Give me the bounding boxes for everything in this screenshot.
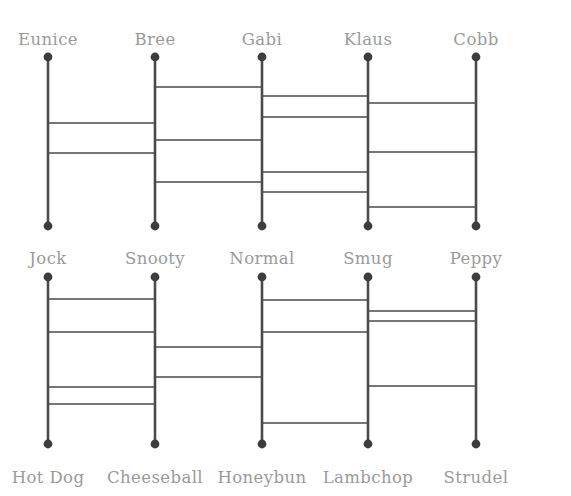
ladder-node-bottom — [472, 222, 481, 231]
upper-top-label-3: Klaus — [344, 32, 393, 49]
ladder-node-top — [258, 53, 267, 62]
ladder-canvas — [0, 0, 571, 496]
lower-ladder — [44, 273, 481, 449]
lower-bottom-label-2: Honeybun — [217, 470, 306, 487]
ladder-node-bottom — [151, 222, 160, 231]
middle-label-1: Snooty — [125, 251, 185, 268]
middle-label-0: Jock — [29, 251, 66, 268]
ladder-node-top — [364, 273, 373, 282]
lower-bottom-label-0: Hot Dog — [12, 470, 85, 487]
middle-label-3: Smug — [343, 251, 393, 268]
upper-top-label-2: Gabi — [242, 32, 282, 49]
upper-top-label-0: Eunice — [18, 32, 78, 49]
ladder-node-top — [364, 53, 373, 62]
lower-bottom-label-1: Cheeseball — [107, 470, 203, 487]
upper-top-label-1: Bree — [134, 32, 175, 49]
upper-top-label-4: Cobb — [453, 32, 498, 49]
ladder-node-top — [472, 273, 481, 282]
ladder-node-bottom — [44, 440, 53, 449]
middle-label-2: Normal — [229, 251, 294, 268]
upper-ladder — [44, 53, 481, 231]
ladder-node-bottom — [258, 222, 267, 231]
ladder-node-top — [151, 273, 160, 282]
ladder-node-top — [44, 53, 53, 62]
ladder-node-bottom — [151, 440, 160, 449]
ladder-node-bottom — [364, 440, 373, 449]
ladder-node-top — [151, 53, 160, 62]
ladder-node-top — [258, 273, 267, 282]
middle-label-4: Peppy — [450, 251, 503, 268]
lower-bottom-label-3: Lambchop — [323, 470, 414, 487]
lower-bottom-label-4: Strudel — [444, 470, 509, 487]
ladder-node-bottom — [258, 440, 267, 449]
ladder-node-top — [44, 273, 53, 282]
ladder-node-bottom — [472, 440, 481, 449]
ladder-node-top — [472, 53, 481, 62]
ladder-diagram: EuniceBreeGabiKlausCobbJockSnootyNormalS… — [0, 0, 571, 496]
ladder-node-bottom — [44, 222, 53, 231]
ladder-node-bottom — [364, 222, 373, 231]
